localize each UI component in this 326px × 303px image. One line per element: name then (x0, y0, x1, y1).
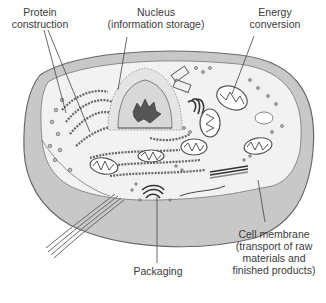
label-nucleus: Nucleus (information storage) (101, 6, 211, 30)
vacuole (255, 112, 273, 124)
label-packaging: Packaging (118, 265, 198, 277)
cytoplasm-top (41, 61, 301, 200)
label-energy-conversion: Energy conversion (240, 6, 310, 30)
label-protein-construction: Protein construction (2, 6, 78, 30)
label-cell-membrane: Cell membrane (transport of raw material… (222, 228, 326, 276)
cell-diagram: Protein construction Nucleus (informatio… (0, 0, 326, 303)
